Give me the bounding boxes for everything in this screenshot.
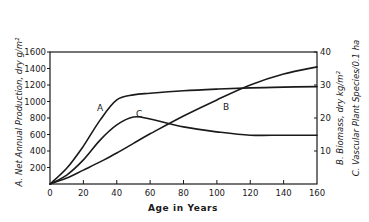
left-axis-ticks: 2004006008001000120014001600 <box>24 47 50 173</box>
left-tick-label: 1200 <box>24 80 46 90</box>
x-tick-label: 140 <box>276 188 292 198</box>
x-tick-label: 0 <box>47 188 52 198</box>
plot-frame <box>50 52 317 184</box>
x-axis-title: Age in Years <box>148 203 218 213</box>
x-tick-label: 100 <box>209 188 225 198</box>
left-tick-label: 200 <box>30 163 46 173</box>
right-tick-label: 40 <box>320 47 331 57</box>
left-tick-label: 1000 <box>24 97 46 107</box>
x-tick-label: 60 <box>145 188 156 198</box>
line-chart: 020406080100120140160 200400600800100012… <box>0 0 369 222</box>
curve-b-biomass <box>50 67 317 184</box>
left-tick-label: 1600 <box>24 47 46 57</box>
x-axis-ticks: 020406080100120140160 <box>47 180 325 198</box>
curve-label-b: B <box>223 102 229 112</box>
x-tick-label: 20 <box>78 188 89 198</box>
right-tick-label: 20 <box>320 113 331 123</box>
right-tick-label: 10 <box>320 146 331 156</box>
left-tick-label: 400 <box>30 146 46 156</box>
curve-label-c: C <box>136 109 142 119</box>
x-tick-label: 120 <box>242 188 258 198</box>
left-tick-label: 800 <box>30 113 46 123</box>
x-tick-label: 80 <box>178 188 189 198</box>
left-axis-title: A. Net Annual Production, dry g/m² <box>14 37 24 187</box>
right-axis-title-species: C. Vascular Plant Species/0.1 ha <box>351 40 361 177</box>
right-tick-label: 30 <box>320 80 331 90</box>
curve-label-a: A <box>97 103 104 113</box>
right-axis-title-biomass: B. Biomass, dry kg/m² <box>335 70 345 164</box>
left-tick-label: 1400 <box>24 64 46 74</box>
x-tick-label: 160 <box>309 188 325 198</box>
x-tick-label: 40 <box>111 188 122 198</box>
curve-c-plant-species <box>50 117 317 184</box>
left-tick-label: 600 <box>30 130 46 140</box>
